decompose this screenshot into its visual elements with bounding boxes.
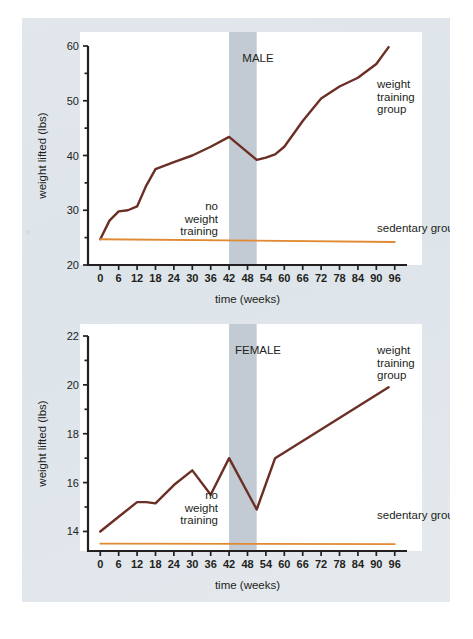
scanned-page-panel: 2030405060061218243036424854606672788490… — [22, 18, 450, 602]
x-axis-tick-label: 54 — [260, 272, 273, 284]
x-axis-tick-label: 12 — [131, 272, 143, 284]
x-axis-tick-label: 48 — [241, 558, 253, 570]
y-axis-label: weight lifted (lbs) — [36, 112, 48, 199]
x-axis-tick-label: 30 — [186, 272, 198, 284]
chart-female: 1416182022061218243036424854606672788490… — [22, 318, 450, 602]
x-axis-tick-label: 60 — [278, 558, 290, 570]
y-axis-tick-label: 60 — [67, 40, 79, 52]
x-axis-tick-label: 84 — [352, 272, 365, 284]
y-axis-tick-label: 30 — [67, 204, 79, 216]
x-axis-tick-label: 54 — [260, 558, 273, 570]
x-axis-tick-label: 6 — [116, 272, 122, 284]
y-axis-tick-label: 22 — [67, 330, 79, 342]
annotation-line: training — [180, 514, 218, 526]
annotation-line: group — [377, 369, 406, 381]
x-axis-tick-label: 18 — [149, 558, 161, 570]
x-axis-tick-label: 12 — [131, 558, 143, 570]
x-axis-tick-label: 18 — [149, 272, 161, 284]
x-axis-tick-label: 78 — [333, 558, 345, 570]
x-axis-tick-label: 6 — [116, 558, 122, 570]
x-axis-label: time (weeks) — [215, 579, 280, 591]
x-axis-tick-label: 42 — [223, 558, 235, 570]
y-axis-tick-label: 50 — [67, 95, 79, 107]
x-axis-tick-label: 30 — [186, 558, 198, 570]
annotation-line: sedentary group — [377, 509, 450, 521]
annotation-sedentary-group: sedentary group — [377, 509, 450, 521]
annotation-line: weight — [184, 213, 219, 225]
chart-male-svg: 2030405060061218243036424854606672788490… — [22, 24, 450, 312]
annotation-line: weight — [376, 344, 411, 356]
y-axis-tick-label: 16 — [67, 477, 79, 489]
x-axis-tick-label: 72 — [315, 272, 327, 284]
scan-speck — [27, 230, 30, 234]
y-axis-tick-label: 20 — [67, 259, 79, 271]
annotation-line: group — [377, 103, 406, 115]
y-axis-tick-label: 40 — [67, 150, 79, 162]
chart-title: FEMALE — [235, 344, 281, 356]
annotation-sedentary-group: sedentary group — [377, 222, 450, 234]
y-axis-tick-label: 18 — [67, 428, 79, 440]
x-axis-tick-label: 66 — [297, 272, 309, 284]
x-axis-tick-label: 90 — [370, 558, 382, 570]
chart-male: 2030405060061218243036424854606672788490… — [22, 24, 450, 312]
annotation-line: no — [205, 200, 218, 212]
y-axis-label: weight lifted (lbs) — [36, 400, 48, 487]
x-axis-tick-label: 48 — [241, 272, 253, 284]
x-axis-tick-label: 78 — [333, 272, 345, 284]
annotation-line: training — [377, 91, 415, 103]
annotation-line: weight — [184, 502, 219, 514]
annotation-line: weight — [376, 78, 411, 90]
x-axis-tick-label: 60 — [278, 272, 290, 284]
y-axis-tick-label: 14 — [67, 525, 79, 537]
annotation-line: sedentary group — [377, 222, 450, 234]
annotation-line: no — [205, 489, 218, 501]
x-axis-tick-label: 36 — [205, 272, 217, 284]
x-axis-tick-label: 90 — [370, 272, 382, 284]
x-axis-tick-label: 0 — [97, 558, 103, 570]
shaded-region-no-weight-training — [229, 324, 257, 551]
x-axis-tick-label: 72 — [315, 558, 327, 570]
annotation-line: training — [377, 357, 415, 369]
chart-female-svg: 1416182022061218243036424854606672788490… — [22, 318, 450, 602]
x-axis-tick-label: 0 — [97, 272, 103, 284]
x-axis-tick-label: 36 — [205, 558, 217, 570]
x-axis-tick-label: 66 — [297, 558, 309, 570]
x-axis-tick-label: 42 — [223, 272, 235, 284]
annotation-line: training — [180, 225, 218, 237]
x-axis-tick-label: 96 — [389, 558, 401, 570]
x-axis-tick-label: 96 — [389, 272, 401, 284]
x-axis-tick-label: 24 — [168, 272, 181, 284]
x-axis-tick-label: 24 — [168, 558, 181, 570]
y-axis-tick-label: 20 — [67, 379, 79, 391]
x-axis-tick-label: 84 — [352, 558, 365, 570]
x-axis-label: time (weeks) — [215, 293, 280, 305]
chart-title: MALE — [242, 52, 274, 64]
